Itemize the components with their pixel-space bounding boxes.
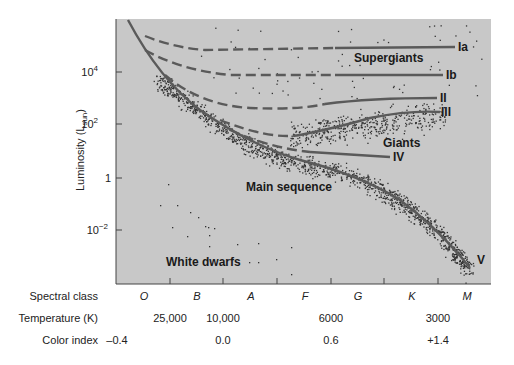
y-axis-label: Luminosity (Lsun): [74, 109, 89, 191]
label-giants: Giants: [383, 136, 421, 150]
svg-text:0.0: 0.0: [215, 334, 230, 346]
row-label-spectral: Spectral class: [30, 290, 99, 302]
svg-text:–0.4: –0.4: [106, 334, 127, 346]
ytick-1: 1: [105, 172, 111, 184]
spectral-class-labels: O B A F G K M: [140, 290, 473, 302]
svg-text:25,000: 25,000: [153, 312, 187, 324]
ytick-1e4: 104: [81, 64, 98, 78]
row-label-temperature: Temperature (K): [19, 312, 98, 324]
svg-text:O: O: [140, 290, 149, 302]
svg-text:10,000: 10,000: [206, 312, 240, 324]
label-white-dwarfs: White dwarfs: [166, 255, 241, 269]
svg-text:3000: 3000: [426, 312, 450, 324]
svg-text:0.6: 0.6: [323, 334, 338, 346]
ytick-1em2: 10−2: [87, 222, 109, 236]
label-iii: III: [441, 105, 451, 119]
svg-text:G: G: [354, 290, 363, 302]
label-ii: II: [440, 91, 447, 105]
svg-text:K: K: [408, 290, 416, 302]
temperature-labels: 25,000 10,000 6000 3000: [153, 312, 450, 324]
label-ib: Ib: [446, 68, 457, 82]
label-iv: IV: [393, 150, 404, 164]
svg-text:F: F: [302, 290, 310, 302]
svg-text:A: A: [246, 290, 254, 302]
svg-text:M: M: [462, 290, 472, 302]
label-main-sequence: Main sequence: [246, 180, 332, 194]
row-label-color: Color index: [42, 334, 98, 346]
label-v: V: [477, 253, 485, 267]
svg-text:+1.4: +1.4: [427, 334, 449, 346]
label-ia: Ia: [458, 40, 468, 54]
label-supergiants: Supergiants: [354, 51, 424, 65]
svg-text:B: B: [193, 290, 200, 302]
svg-text:6000: 6000: [319, 312, 343, 324]
color-index-labels: –0.4 0.0 0.6 +1.4: [106, 334, 449, 346]
hr-diagram: 104 102 1 10−2 Luminosity (Lsun) Ia Ib I…: [0, 0, 514, 365]
